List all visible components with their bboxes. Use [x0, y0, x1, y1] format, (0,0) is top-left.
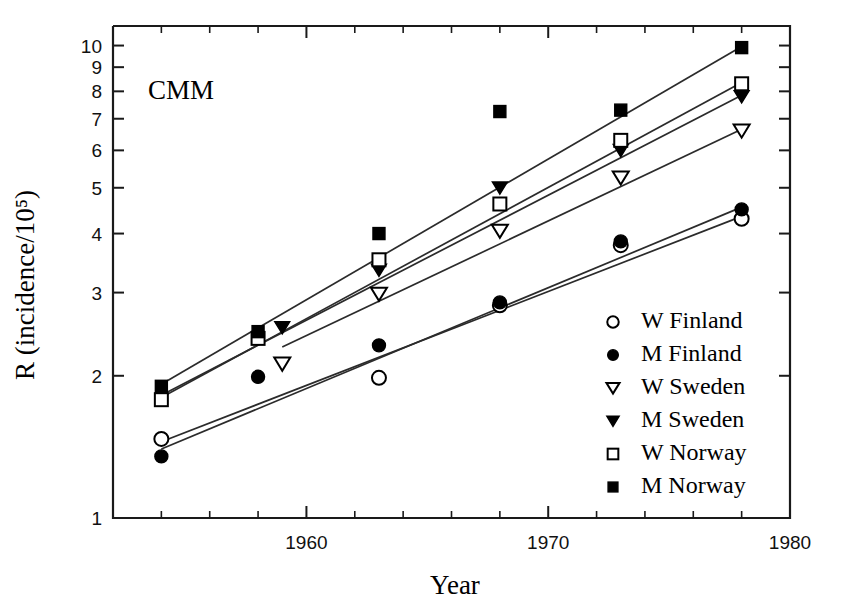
- y-axis-title: R (incidence/10⁵): [10, 190, 40, 380]
- y-tick-label: 4: [91, 224, 102, 245]
- marker-square-filled: [494, 106, 506, 118]
- marker-square-open: [614, 134, 627, 147]
- chart-legend: W FinlandM FinlandW SwedenM SwedenW Norw…: [606, 307, 746, 498]
- data-markers: [154, 42, 749, 463]
- legend-item-m-norway: M Norway: [608, 472, 746, 498]
- y-tick-label: 2: [91, 366, 102, 387]
- legend-label: M Norway: [641, 472, 746, 498]
- y-axis-tick-labels: 12345678910: [81, 36, 103, 529]
- y-tick-label: 6: [91, 140, 102, 161]
- panel-label: CMM: [148, 75, 214, 105]
- legend-label: W Finland: [641, 307, 743, 333]
- marker-square-filled: [736, 42, 748, 54]
- marker-circle-filled: [735, 203, 748, 216]
- legend-label: M Sweden: [641, 406, 744, 432]
- marker-circle-open: [372, 371, 386, 385]
- legend-item-w-norway: W Norway: [608, 439, 747, 465]
- marker-circle-filled: [372, 339, 385, 352]
- marker-triangle-down-open: [613, 172, 629, 185]
- x-axis-title: Year: [430, 570, 480, 600]
- legend-item-m-finland: M Finland: [608, 340, 742, 366]
- marker-square-filled: [615, 104, 627, 116]
- legend-label: W Norway: [641, 439, 747, 465]
- y-tick-label: 8: [91, 81, 102, 102]
- marker-square-open: [735, 77, 748, 90]
- series-w-sweden: [274, 125, 749, 371]
- marker-triangle-down-open: [492, 225, 508, 238]
- marker-triangle-down-filled: [492, 182, 507, 194]
- marker-square-open: [608, 449, 619, 460]
- marker-square-open: [493, 197, 506, 210]
- x-tick-label: 1980: [769, 532, 811, 553]
- chart-figure: 196019701980 12345678910 W FinlandM Finl…: [0, 0, 848, 607]
- marker-triangle-down-filled: [275, 322, 290, 334]
- marker-circle-filled: [614, 235, 627, 248]
- marker-circle-filled: [155, 450, 168, 463]
- marker-square-open: [155, 393, 168, 406]
- marker-square-filled: [155, 380, 167, 392]
- y-tick-label: 1: [91, 508, 102, 529]
- legend-label: M Finland: [641, 340, 742, 366]
- y-tick-label: 9: [91, 57, 102, 78]
- legend-item-w-finland: W Finland: [607, 307, 742, 333]
- x-tick-label: 1970: [527, 532, 569, 553]
- marker-circle-filled: [493, 296, 506, 309]
- x-tick-label: 1960: [285, 532, 327, 553]
- legend-label: W Sweden: [641, 373, 745, 399]
- marker-square-filled: [252, 326, 264, 338]
- marker-triangle-down-open: [274, 358, 290, 371]
- marker-circle-filled: [252, 370, 265, 383]
- marker-circle-open: [607, 316, 618, 327]
- marker-circle-filled: [608, 350, 619, 361]
- x-axis-tick-labels: 196019701980: [285, 532, 811, 553]
- chart-canvas: 196019701980 12345678910 W FinlandM Finl…: [0, 0, 848, 607]
- marker-square-open: [372, 253, 385, 266]
- marker-circle-open: [154, 432, 168, 446]
- legend-item-m-sweden: M Sweden: [607, 406, 744, 432]
- marker-square-filled: [373, 228, 385, 240]
- legend-item-w-sweden: W Sweden: [606, 373, 745, 399]
- y-tick-label: 10: [81, 36, 102, 57]
- marker-triangle-down-open: [606, 383, 619, 394]
- y-tick-label: 3: [91, 283, 102, 304]
- y-tick-label: 5: [91, 178, 102, 199]
- trend-line-m-norway: [161, 47, 741, 385]
- marker-square-filled: [608, 482, 618, 492]
- marker-triangle-down-filled: [607, 416, 619, 426]
- y-tick-label: 7: [91, 109, 102, 130]
- marker-triangle-down-filled: [734, 91, 749, 103]
